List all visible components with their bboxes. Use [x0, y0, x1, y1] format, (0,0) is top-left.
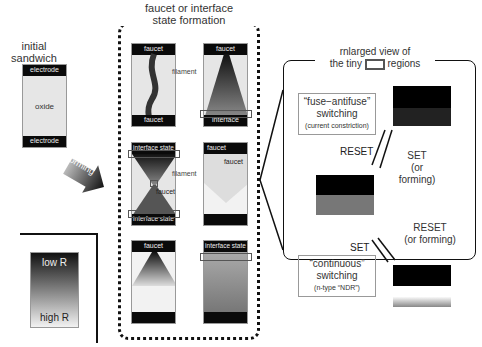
- reset-label: RESET: [340, 146, 373, 157]
- row2-right-cell: faucet faucet: [203, 142, 248, 226]
- fuse-antifuse-box: “fuse−antifuse” switching (current const…: [298, 93, 376, 135]
- tiny-region-box: [200, 110, 252, 118]
- enlarged-middle-state: [316, 175, 374, 215]
- forming-label: forming: [66, 153, 97, 177]
- electrode: [204, 312, 247, 323]
- set-label: SET (or forming): [392, 150, 442, 186]
- continuous-box: “continuous” switching (n-type “NDR”): [298, 255, 376, 297]
- oxide-label: oxide: [23, 102, 66, 111]
- set-label-2: SET: [350, 242, 369, 253]
- tiny-region-box: [200, 253, 252, 261]
- row1-left-cell: faucet faucet: [131, 43, 176, 127]
- tiny-region-box: [150, 180, 158, 187]
- enlarged-continuous-state: [393, 265, 451, 307]
- initial-sandwich: electrode oxide electrode: [22, 64, 67, 148]
- reset-forming-label: RESET (or forming): [395, 222, 465, 246]
- enlarged-title: rnlarged view of the tiny regions: [315, 46, 435, 70]
- electrode: [132, 312, 175, 323]
- enlarged-fuse-state: [393, 86, 451, 126]
- top-electrode: electrode: [23, 65, 66, 76]
- tiny-region-box: [128, 210, 180, 218]
- bottom-electrode: electrode: [23, 136, 66, 147]
- electrode: [204, 214, 247, 225]
- formation-title: faucet or interface state formation: [118, 2, 260, 26]
- tiny-region-box: [128, 150, 180, 158]
- filament-label-2: filament: [172, 170, 197, 177]
- filament-label-1: filament: [172, 68, 197, 75]
- initial-title: initial sandwich: [5, 40, 63, 64]
- row3-left-cell: faucet: [131, 240, 176, 324]
- faucet-label: faucet: [156, 188, 175, 195]
- resistance-legend: low R high R: [30, 252, 79, 328]
